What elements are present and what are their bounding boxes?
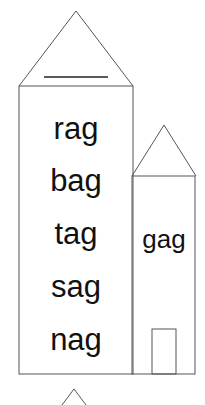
small-house-roof [132,125,196,176]
word-bag: bag [19,165,133,196]
small-house-body [132,176,195,374]
word-family-houses-diagram: rag bag tag sag nag gag [0,0,205,405]
word-nag: nag [19,324,133,355]
word-sag: sag [19,271,133,302]
next-house-roof-partial [62,389,86,405]
word-tag: tag [19,218,133,249]
word-rag: rag [19,113,133,144]
word-gag: gag [132,226,196,252]
small-house-door [152,329,176,374]
tall-house-roof [19,11,133,86]
